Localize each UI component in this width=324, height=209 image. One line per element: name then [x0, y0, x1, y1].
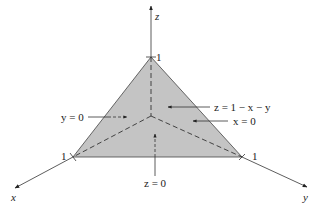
z-tick-label: 1	[156, 51, 162, 63]
x-tick-label: 1	[61, 150, 67, 162]
y-tick-label: 1	[252, 150, 258, 162]
tetrahedron-diagram: z x y 1 1 1 y = 0 z = 1 − x − y x = 0 z …	[0, 0, 324, 209]
label-y-equals-0: y = 0	[61, 111, 84, 123]
z-axis-label: z	[154, 10, 160, 22]
label-x-equals-0: x = 0	[233, 115, 256, 127]
label-z-equals-0: z = 0	[144, 177, 167, 189]
label-plane-equation: z = 1 − x − y	[214, 101, 271, 113]
x-axis-label: x	[10, 191, 16, 203]
y-axis-label: y	[302, 191, 308, 203]
